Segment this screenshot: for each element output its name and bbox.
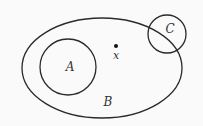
point-x-dot <box>114 44 118 48</box>
set-a-label: A <box>65 60 75 74</box>
set-b-ellipse <box>22 18 182 118</box>
venn-diagram: A B C x <box>0 0 203 126</box>
set-b-label: B <box>103 95 113 109</box>
diagram-svg: A B C x <box>0 0 203 126</box>
point-x-label: x <box>113 49 120 62</box>
set-c-label: C <box>165 22 174 36</box>
